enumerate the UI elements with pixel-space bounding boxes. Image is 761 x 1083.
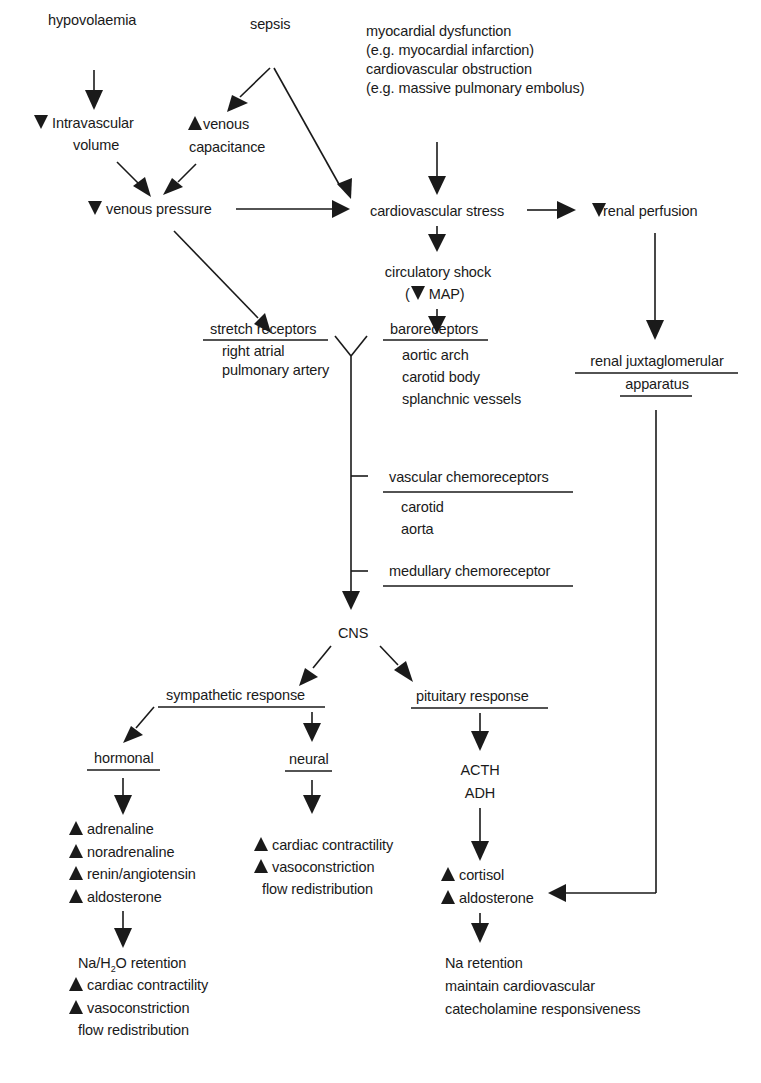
cause-sepsis: sepsis (250, 15, 291, 34)
renal-jg-title-1: renal juxtaglomerular (575, 352, 739, 371)
cardiac-cause-line: myocardial dysfunction (366, 22, 584, 41)
cause-cardiac: myocardial dysfunction (e.g. myocardial … (366, 22, 584, 98)
increase-icon (441, 890, 455, 904)
vascular-chemoreceptors-items: carotid aorta (401, 496, 444, 540)
sympathetic-response: sympathetic response (166, 686, 305, 705)
neural-title: neural (289, 750, 329, 769)
effect-item: catecholamine responsiveness (445, 998, 640, 1021)
baroreceptors-items: aortic arch carotid body splanchnic vess… (402, 344, 521, 410)
cardiac-cause-line: (e.g. massive pulmonary embolus) (366, 79, 584, 98)
effect-item: vasoconstriction (254, 856, 393, 878)
increase-icon (188, 116, 202, 130)
effect-label: vasoconstriction (272, 859, 374, 875)
renal-perfusion: renal perfusion (592, 202, 697, 221)
adrenal-item: aldosterone (441, 887, 534, 910)
increase-icon (441, 867, 455, 881)
effect-label: flow redistribution (78, 1022, 189, 1038)
stretch-receptors-items: right atrial pulmonary artery (222, 342, 329, 380)
hormone-item: renin/angiotensin (69, 863, 196, 886)
intravascular-volume-label: Intravascular (52, 115, 134, 131)
na-h2o-retention: Na/H2O retention (78, 952, 186, 975)
venous-capacitance-line2: capacitance (189, 138, 265, 157)
receptor-item: right atrial (222, 342, 329, 361)
neural-items: cardiac contractility vasoconstriction f… (254, 834, 393, 900)
connector-lines (0, 0, 761, 1083)
hormone-item: aldosterone (69, 886, 196, 909)
hormonal-items: adrenaline noradrenaline renin/angiotens… (69, 818, 196, 908)
increase-icon (254, 837, 268, 851)
hormonal-effects-list: cardiac contractility vasoconstriction f… (69, 974, 208, 1042)
cardiac-cause-line: (e.g. myocardial infarction) (366, 41, 584, 60)
adrenal-outputs: cortisol aldosterone (441, 864, 534, 910)
adrenal-item: cortisol (441, 864, 534, 887)
venous-pressure: venous pressure (88, 200, 212, 219)
decrease-icon (34, 115, 48, 129)
hormone-label: adrenaline (87, 821, 154, 837)
receptor-item: carotid (401, 496, 444, 518)
hormonal-effects: Na/H2O retention (78, 952, 186, 975)
cause-hypovolaemia: hypovolaemia (48, 11, 136, 30)
increase-icon (69, 844, 83, 858)
hormonal-title: hormonal (94, 749, 154, 768)
effect-item: flow redistribution (254, 878, 393, 900)
increase-icon (69, 889, 83, 903)
stretch-receptors-title: stretch receptors (210, 320, 316, 339)
effect-item: Na retention (445, 952, 640, 975)
retention-suffix: O retention (116, 955, 187, 971)
intravascular-volume-line2: volume (73, 136, 119, 155)
decrease-icon (411, 286, 425, 300)
venous-pressure-label: venous pressure (106, 201, 212, 217)
renal-perfusion-label: renal perfusion (603, 203, 697, 219)
effect-label: flow redistribution (262, 881, 373, 897)
increase-icon (254, 859, 268, 873)
map-decrease: (MAP) (405, 285, 465, 304)
hormone-label: aldosterone (87, 889, 162, 905)
paren: ( (405, 286, 410, 302)
effect-item: cardiac contractility (254, 834, 393, 856)
effect-item: maintain cardiovascular (445, 975, 640, 998)
adrenal-label: aldosterone (459, 890, 534, 906)
increase-icon (69, 866, 83, 880)
hormone-acth: ACTH (450, 759, 510, 782)
effect-item: flow redistribution (69, 1019, 208, 1042)
decrease-icon (88, 201, 102, 215)
pituitary-hormones: ACTH ADH (450, 759, 510, 805)
venous-capacitance: venous (188, 115, 249, 134)
map-label: MAP) (429, 286, 465, 302)
circulatory-shock: circulatory shock (380, 263, 496, 282)
effect-label: vasoconstriction (87, 1000, 189, 1016)
cardiovascular-stress: cardiovascular stress (370, 202, 504, 221)
receptor-item: aortic arch (402, 344, 521, 366)
receptor-item: splanchnic vessels (402, 388, 521, 410)
effect-label: cardiac contractility (272, 837, 393, 853)
vascular-chemoreceptors-title: vascular chemoreceptors (389, 468, 549, 487)
baroreceptors-title: baroreceptors (390, 320, 478, 339)
receptor-item: aorta (401, 518, 444, 540)
effect-item: vasoconstriction (69, 997, 208, 1020)
adrenal-label: cortisol (459, 867, 504, 883)
renal-jg-title-2: apparatus (575, 375, 739, 394)
increase-icon (69, 821, 83, 835)
cardiac-cause-line: cardiovascular obstruction (366, 60, 584, 79)
pituitary-effects: Na retention maintain cardiovascular cat… (445, 952, 640, 1021)
increase-icon (69, 1000, 83, 1014)
medullary-chemoreceptor-title: medullary chemoreceptor (389, 562, 550, 581)
shock-pathophysiology-diagram: hypovolaemia sepsis myocardial dysfuncti… (0, 0, 761, 1083)
hormone-label: noradrenaline (87, 844, 174, 860)
retention-prefix: Na/H (78, 955, 111, 971)
increase-icon (69, 977, 83, 991)
venous-capacitance-label: venous (203, 116, 249, 132)
receptor-item: carotid body (402, 366, 521, 388)
hormone-adh: ADH (450, 782, 510, 805)
hormone-item: adrenaline (69, 818, 196, 841)
hormone-label: renin/angiotensin (87, 866, 196, 882)
receptor-item: pulmonary artery (222, 361, 329, 380)
hormone-item: noradrenaline (69, 841, 196, 864)
intravascular-volume: Intravascular (34, 114, 134, 133)
effect-label: cardiac contractility (87, 977, 208, 993)
effect-item: cardiac contractility (69, 974, 208, 997)
cns: CNS (338, 624, 368, 643)
pituitary-response: pituitary response (416, 687, 529, 706)
